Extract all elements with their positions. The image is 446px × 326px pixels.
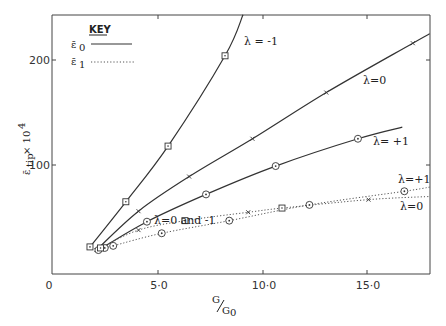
svg-text:× 10: × 10 bbox=[21, 131, 32, 155]
x-axis-label: G G 0 bbox=[212, 294, 236, 318]
chart: 0 5·0 10·0 15·0 200 100 G G 0 ε̄ tip × 1… bbox=[0, 0, 446, 326]
x-tick-15: 15·0 bbox=[356, 279, 381, 292]
x-marker bbox=[137, 209, 141, 213]
label-lambda-0-and-m1: λ=0 and -1 bbox=[154, 214, 216, 227]
y-tick-200: 200 bbox=[29, 54, 50, 67]
svg-text:G: G bbox=[212, 294, 220, 305]
svg-text:0: 0 bbox=[79, 42, 85, 53]
label-lambda-0: λ=0 bbox=[363, 74, 386, 87]
svg-text:G: G bbox=[222, 305, 230, 316]
label-lambda-p1-dotted: λ=+1 bbox=[398, 173, 430, 186]
svg-text:1: 1 bbox=[79, 59, 85, 70]
x-marker bbox=[411, 41, 415, 45]
label-lambda-0-dotted: λ=0 bbox=[400, 200, 423, 213]
svg-text:4: 4 bbox=[16, 123, 27, 129]
y-axis-label: ε̄ tip × 10 4 bbox=[16, 123, 35, 175]
label-lambda-m1: λ = -1 bbox=[244, 35, 278, 48]
x-tick-10: 10·0 bbox=[252, 279, 277, 292]
x-tick-5: 5·0 bbox=[150, 279, 168, 292]
svg-text:ε̄: ε̄ bbox=[21, 170, 32, 175]
label-lambda-p1: λ= +1 bbox=[373, 135, 409, 148]
series-line-2 bbox=[98, 127, 402, 250]
legend: KEY ε̄ 0 ε̄ 1 bbox=[71, 24, 134, 70]
legend-e0-label: ε̄ bbox=[71, 39, 76, 50]
legend-e1-label: ε̄ bbox=[71, 56, 76, 67]
x-marker bbox=[187, 175, 191, 179]
svg-text:0: 0 bbox=[230, 307, 236, 318]
x-marker bbox=[137, 228, 141, 232]
legend-title: KEY bbox=[89, 24, 112, 35]
x-marker bbox=[250, 137, 254, 141]
x-tick-0: 0 bbox=[46, 279, 53, 292]
x-marker bbox=[324, 91, 328, 95]
